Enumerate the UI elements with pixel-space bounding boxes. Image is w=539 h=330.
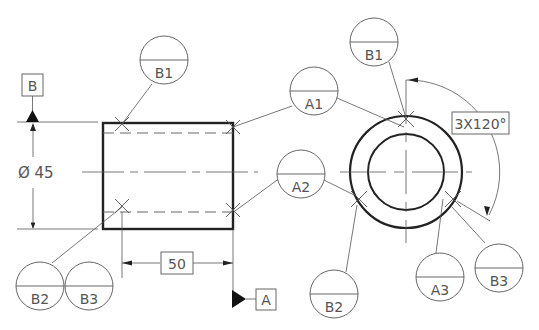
balloon-b2-left: B2 [16, 262, 64, 310]
svg-text:B1: B1 [155, 65, 174, 81]
svg-text:B3: B3 [80, 291, 99, 307]
balloon-b3-left: B3 [65, 262, 113, 310]
length-dimension: 50 [168, 256, 186, 272]
datum-b-triangle [26, 110, 39, 122]
svg-text:A3: A3 [431, 282, 449, 298]
cylinder-outline [103, 123, 233, 229]
svg-text:A2: A2 [292, 179, 310, 195]
end-view: 3X120° [340, 78, 509, 244]
balloon-b2-right: B2 [310, 270, 358, 318]
svg-text:B1: B1 [365, 47, 384, 63]
datum-a-triangle [232, 290, 246, 308]
leader-lines [52, 62, 485, 272]
angular-dimension: 3X120° [454, 116, 506, 132]
balloon-b1-left: B1 [140, 36, 188, 84]
svg-text:A1: A1 [305, 96, 323, 112]
svg-text:B2: B2 [325, 299, 344, 315]
drawing-canvas: B Ø 45 50 A [0, 0, 539, 330]
svg-text:B3: B3 [490, 273, 509, 289]
balloon-b1-right: B1 [350, 18, 398, 66]
balloon-a3: A3 [416, 253, 464, 301]
datum-a-label: A [261, 292, 271, 308]
balloon-b3-right: B3 [475, 244, 523, 292]
datum-b-label: B [28, 78, 38, 94]
diameter-dimension: Ø 45 [18, 164, 54, 182]
balloon-a2: A2 [277, 150, 325, 198]
svg-text:B2: B2 [31, 291, 50, 307]
balloon-a1: A1 [290, 67, 338, 115]
